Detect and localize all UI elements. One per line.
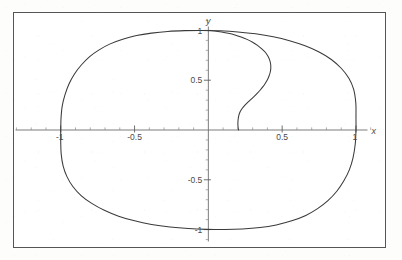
x-tick-label-neg-one: -1 (56, 132, 64, 142)
x-axis-title: x (371, 126, 377, 136)
y-tick-label-pos-half: 0.5 (191, 75, 203, 85)
x-tick-label-neg-half: -0.5 (127, 132, 142, 142)
y-tick-label-neg-one: -1 (195, 225, 203, 235)
x-tick-label-pos-one: 1 (353, 132, 358, 142)
x-tick-label-pos-half: 0.5 (276, 132, 288, 142)
plot-svg: -1 -0.5 0.5 1 1 0.5 -0.5 -1 x y (0, 0, 402, 260)
y-tick-label-pos-one: 1 (198, 26, 203, 36)
plot-figure: -1 -0.5 0.5 1 1 0.5 -0.5 -1 x y (0, 0, 402, 260)
y-axis-title: y (205, 16, 211, 26)
y-tick-label-neg-half: -0.5 (188, 175, 203, 185)
